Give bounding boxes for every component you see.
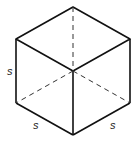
bottom-right-edge [73,103,130,135]
label-bottom-right-edge: s [110,119,116,131]
hidden-right-edge [73,71,130,103]
label-left-edge: s [7,65,13,77]
cube-diagram: s s s [0,0,140,143]
hidden-left-edge [16,71,73,103]
label-bottom-left-edge: s [33,119,39,131]
bottom-left-edge [16,103,73,135]
